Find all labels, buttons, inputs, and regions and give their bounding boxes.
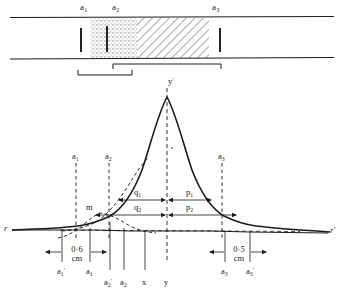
- interval-label-p1-sub: 1: [190, 192, 193, 198]
- tube-wall-bottom: [10, 58, 334, 60]
- main-curve: [12, 97, 330, 232]
- peak-label-y-prime: y': [168, 77, 174, 86]
- axis-label-a2p-prime: ': [111, 277, 112, 284]
- axis-label-a2-sub: 2: [124, 282, 127, 288]
- interval-label-q1-sub: 1: [138, 192, 141, 198]
- axis-label-a1-prime: a1': [57, 267, 65, 277]
- hatch-region: [137, 18, 209, 58]
- top-label-a3-sub: 3: [216, 7, 219, 13]
- interval-label-q1: q1: [134, 188, 141, 198]
- curve-label-a3-sub: 3: [222, 156, 225, 162]
- top-label-a1-sub: 1: [84, 7, 87, 13]
- bracket-lower: [78, 70, 132, 75]
- top-tube-diagram: [10, 17, 334, 76]
- scientific-figure: [0, 0, 344, 298]
- curve-label-a3: a3: [218, 152, 225, 162]
- axis-label-a3: a3: [221, 267, 228, 277]
- tube-wall-top: [10, 17, 334, 18]
- baseline-label-r: r: [4, 224, 7, 233]
- axis-label-a1p-prime: ': [64, 266, 65, 273]
- axis-label-a3-sub: 3: [225, 271, 228, 277]
- interval-arrow-q2: [95, 213, 166, 217]
- measure-right: 0·5 cm: [226, 245, 252, 262]
- interval-label-q2-sub: 2: [138, 207, 141, 213]
- top-label-a2-sub: 2: [116, 7, 119, 13]
- top-label-a2: a2: [112, 3, 119, 13]
- curve-label-a2: a2: [105, 152, 112, 162]
- curve-label-a1: a1: [72, 152, 79, 162]
- interval-label-p1: p1: [186, 188, 193, 198]
- baseline-label-r-prime: r': [330, 226, 335, 235]
- curve-label-a1-sub: 1: [76, 156, 79, 162]
- axis-label-a2: a2: [120, 278, 127, 288]
- axis-label-x: x: [142, 278, 146, 287]
- interval-label-p2-sub: 2: [190, 207, 193, 213]
- peak-label-prime: ': [173, 76, 174, 84]
- interval-label-p2: p2: [186, 203, 193, 213]
- measure-right-unit: cm: [234, 253, 244, 263]
- axis-label-a3p-prime: ': [253, 266, 254, 273]
- axis-label-a2-prime: a2': [104, 278, 112, 288]
- measure-left: 0·6 cm: [63, 245, 91, 262]
- measure-left-unit: cm: [72, 253, 82, 263]
- stipple-region: [90, 18, 137, 58]
- top-label-a1: a1: [80, 3, 87, 13]
- interval-label-q2: q2: [134, 203, 141, 213]
- axis-label-a3-prime: a3': [246, 267, 254, 277]
- top-label-a3: a3: [212, 3, 219, 13]
- axis-label-a1-sub: 1: [90, 271, 93, 277]
- peak-marker-dot: [171, 147, 173, 149]
- distribution-curve-plot: [12, 88, 330, 270]
- curve-label-a2-sub: 2: [109, 156, 112, 162]
- axis-label-y: y: [164, 278, 168, 287]
- curve-label-m: m: [86, 203, 93, 212]
- bracket-upper: [113, 64, 221, 69]
- axis-label-a1: a1: [86, 267, 93, 277]
